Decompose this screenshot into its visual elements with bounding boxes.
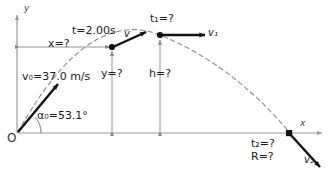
vertical-height-label: y=? (101, 68, 123, 79)
landing-time-label: t₂=? (251, 138, 275, 149)
x-axis-label: x (300, 119, 305, 128)
point-t2 (109, 44, 115, 50)
projectile-motion-figure: y x O v₀=37.0 m/s α₀=53.1° t=2.00s x=? y… (0, 0, 333, 174)
apex-time-label: t₁=? (150, 13, 174, 24)
horizontal-distance-label: x=? (48, 38, 70, 49)
vector-v1-label: v₁ (208, 28, 218, 38)
vector-v0 (18, 84, 58, 132)
initial-speed-label: v₀=37.0 m/s (22, 71, 90, 82)
initial-angle-label: α₀=53.1° (37, 110, 88, 121)
max-height-label: h=? (149, 68, 171, 79)
point-apex (157, 32, 163, 38)
y-axis-label: y (24, 4, 29, 13)
point-landing (286, 130, 292, 136)
origin-label: O (7, 132, 16, 144)
figure-canvas (0, 0, 333, 174)
time-at-point-label: t=2.00s (72, 25, 116, 36)
vector-v-label: v (124, 29, 130, 39)
vector-v2-label: v₂ (304, 155, 314, 165)
range-label: R=? (251, 151, 274, 162)
